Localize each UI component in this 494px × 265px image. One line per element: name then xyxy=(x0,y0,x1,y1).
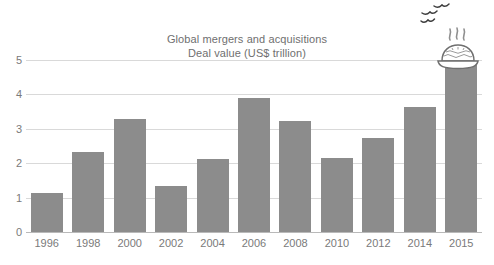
bar-2004 xyxy=(197,159,229,232)
y-axis-tick-label: 5 xyxy=(6,55,22,66)
axis-baseline xyxy=(26,232,482,233)
x-axis-tick-label: 1998 xyxy=(67,238,108,249)
x-axis-tick-label: 1996 xyxy=(26,238,67,249)
bars-layer xyxy=(26,60,482,232)
chart-title: Global mergers and acquisitions xyxy=(0,32,494,46)
y-axis-tick-label: 1 xyxy=(6,193,22,204)
chart-container: Global mergers and acquisitions Deal val… xyxy=(0,0,494,265)
bar-2015 xyxy=(445,61,477,232)
flying-birds-icon xyxy=(418,2,458,28)
x-axis-tick-label: 2014 xyxy=(399,238,440,249)
x-axis-tick-label: 2010 xyxy=(316,238,357,249)
y-axis-tick-label: 3 xyxy=(6,124,22,135)
chart-subtitle: Deal value (US$ trillion) xyxy=(0,46,494,60)
bar-1996 xyxy=(31,193,63,232)
x-axis-tick-label: 2000 xyxy=(109,238,150,249)
bar-2006 xyxy=(238,98,270,232)
y-axis-tick-label: 0 xyxy=(6,227,22,238)
bar-2014 xyxy=(404,107,436,232)
x-axis-tick-label: 2015 xyxy=(441,238,482,249)
bar-2002 xyxy=(155,186,187,232)
bar-2008 xyxy=(279,121,311,232)
bar-2000 xyxy=(114,119,146,232)
bar-1998 xyxy=(72,152,104,232)
x-axis-tick-label: 2002 xyxy=(150,238,191,249)
y-axis-tick-label: 4 xyxy=(6,89,22,100)
steaming-pie-icon xyxy=(432,26,484,70)
chart-title-block: Global mergers and acquisitions Deal val… xyxy=(0,32,494,60)
y-axis-tick-label: 2 xyxy=(6,158,22,169)
x-axis-tick-label: 2006 xyxy=(233,238,274,249)
x-axis-tick-label: 2012 xyxy=(358,238,399,249)
bar-2010 xyxy=(321,158,353,232)
x-axis-tick-label: 2004 xyxy=(192,238,233,249)
bar-2012 xyxy=(362,138,394,232)
x-axis-tick-label: 2008 xyxy=(275,238,316,249)
